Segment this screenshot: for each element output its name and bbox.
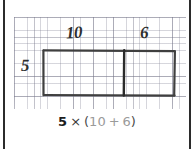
expression-times-symbol: × (70, 114, 81, 129)
expression-addend-one: 10 (89, 114, 106, 129)
expression-close-paren: ) (131, 114, 136, 129)
rectangle-bottom-edge (44, 95, 175, 96)
rectangle-top-edge (44, 50, 175, 51)
label-top-right-factor: 6 (140, 24, 149, 41)
label-top-left-factor: 10 (66, 24, 83, 42)
expression-multiplier: 5 (58, 114, 67, 129)
label-side-factor: 5 (21, 57, 30, 74)
expression-line: 5×(10+6) (0, 113, 194, 131)
expression-plus-symbol: + (109, 114, 120, 129)
rectangle-right-edge (174, 51, 175, 95)
expression-addend-two: 6 (123, 114, 131, 129)
area-model-rectangle (42, 49, 176, 97)
area-model-figure: 10 6 5 5×(10+6) (0, 0, 194, 149)
